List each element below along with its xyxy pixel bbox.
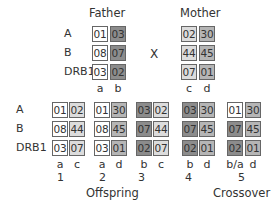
father-hap-b-label: b	[110, 82, 126, 95]
child3-hap1-DRB1: 02	[136, 140, 152, 156]
father-a-A: 01	[92, 26, 108, 42]
mother-hap-d-label: d	[199, 82, 215, 95]
child1-hap2-label: c	[69, 158, 85, 171]
child1-hap1-A: 01	[52, 102, 68, 118]
child1-hap1-label: a	[52, 158, 68, 171]
father-b-A: 03	[110, 26, 126, 42]
child5-hap1-DRB1: 02	[227, 140, 243, 156]
child1-hap1-DRB1: 03	[52, 140, 68, 156]
cross-symbol: X	[150, 48, 158, 60]
child4-hap1-B: 07	[182, 121, 198, 137]
child5-hap2-A: 30	[245, 102, 261, 118]
child5-hap1-B: 07	[227, 121, 243, 137]
child5-hap2-DRB1: 01	[245, 140, 261, 156]
child5-hap1-A: 01	[227, 102, 243, 118]
locus-label-drb1-offspring: DRB1	[16, 142, 47, 154]
child4-hap1-DRB1: 02	[182, 140, 198, 156]
child2-hap2-B: 45	[111, 121, 127, 137]
child2-number: 2	[99, 171, 106, 184]
mother-c-B: 44	[181, 45, 197, 61]
child1-hap2-DRB1: 07	[69, 140, 85, 156]
mother-c-DRB1: 07	[181, 64, 197, 80]
child3-hap1-B: 07	[136, 121, 152, 137]
child3-hap2-label: c	[153, 158, 169, 171]
child5-number: 5	[238, 171, 245, 184]
child4-hap2-A: 30	[199, 102, 215, 118]
child5-hap2-label: d	[245, 158, 261, 171]
locus-label-drb1-parents: DRB1	[64, 66, 95, 78]
child2-hap2-label: d	[111, 158, 127, 171]
child3-hap2-A: 02	[153, 102, 169, 118]
child4-hap1-label: b	[182, 158, 198, 171]
child1-number: 1	[57, 171, 64, 184]
mother-d-A: 30	[199, 26, 215, 42]
offspring-title: Offspring	[86, 186, 139, 200]
mother-d-DRB1: 01	[199, 64, 215, 80]
child3-hap1-A: 03	[136, 102, 152, 118]
child4-hap2-B: 45	[199, 121, 215, 137]
child5-hap1-label: b/a	[224, 158, 246, 171]
child3-number: 3	[138, 171, 145, 184]
child3-hap2-DRB1: 07	[153, 140, 169, 156]
child2-hap1-label: a	[94, 158, 110, 171]
child1-hap1-B: 08	[52, 121, 68, 137]
mother-title: Mother	[180, 6, 221, 20]
child2-hap2-A: 30	[111, 102, 127, 118]
locus-label-a-offspring: A	[16, 104, 24, 116]
child4-hap2-DRB1: 01	[199, 140, 215, 156]
locus-label-b-offspring: B	[16, 123, 24, 135]
child1-hap2-B: 44	[69, 121, 85, 137]
father-hap-a-label: a	[92, 82, 108, 95]
mother-c-A: 02	[181, 26, 197, 42]
father-a-DRB1: 03	[92, 64, 108, 80]
child1-hap2-A: 02	[69, 102, 85, 118]
father-b-DRB1: 02	[110, 64, 126, 80]
child2-hap2-DRB1: 01	[111, 140, 127, 156]
locus-label-b-parents: B	[64, 47, 72, 59]
child2-hap1-A: 01	[94, 102, 110, 118]
mother-hap-c-label: c	[181, 82, 197, 95]
child2-hap1-DRB1: 03	[94, 140, 110, 156]
child4-hap2-label: d	[199, 158, 215, 171]
child4-number: 4	[185, 171, 192, 184]
crossover-title: Crossover	[213, 186, 270, 200]
child3-hap1-label: b	[136, 158, 152, 171]
child3-hap2-B: 44	[153, 121, 169, 137]
child2-hap1-B: 08	[94, 121, 110, 137]
father-b-B: 07	[110, 45, 126, 61]
father-a-B: 08	[92, 45, 108, 61]
locus-label-a-parents: A	[64, 28, 72, 40]
mother-d-B: 45	[199, 45, 215, 61]
child5-hap2-B: 45	[245, 121, 261, 137]
father-title: Father	[89, 6, 125, 20]
child4-hap1-A: 03	[182, 102, 198, 118]
